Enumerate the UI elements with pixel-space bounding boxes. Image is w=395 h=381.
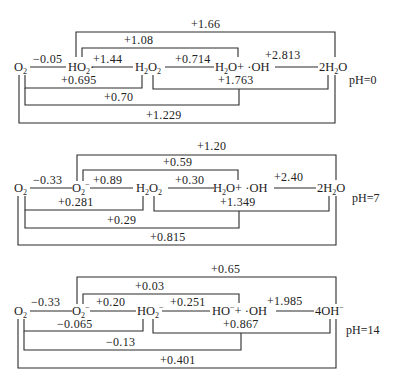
- diagram-ph0: O2 HO2· H2O2 H2O+ ·OH 2H2O −0.05 +1.44 +…: [14, 17, 376, 123]
- species-o2: O2: [14, 60, 27, 76]
- potential-o2-product: +0.401: [160, 353, 196, 367]
- potential-superoxide-radical: +0.59: [163, 155, 192, 169]
- potential-o2-product: +1.229: [146, 108, 182, 122]
- diagram-ph7: O2 O2− H2O2 H2O+ ·OH 2H2O −0.33 +0.89 +0…: [14, 139, 379, 245]
- potential-o2-superoxide: −0.33: [33, 173, 62, 187]
- potential-superoxide-radical: +1.08: [124, 33, 153, 47]
- potential-peroxide-product: +1.763: [218, 73, 254, 87]
- potential-superoxide-product: +1.66: [191, 17, 220, 31]
- latimer-diagram-canvas: O2 HO2· H2O2 H2O+ ·OH 2H2O −0.05 +1.44 +…: [0, 0, 395, 381]
- species-radical-pair: HO−+ ·OH: [212, 303, 267, 318]
- potential-superoxide-product: +0.65: [211, 262, 240, 276]
- potential-peroxide-radical: +0.714: [175, 52, 211, 66]
- ph-label: pH=0: [349, 73, 376, 87]
- potential-o2-radical: −0.13: [106, 335, 135, 349]
- potential-superoxide-peroxide: +0.89: [93, 173, 122, 187]
- potential-o2-product: +0.815: [150, 230, 186, 244]
- species-peroxide: H2O2: [135, 60, 161, 76]
- species-o2: O2: [14, 181, 27, 197]
- species-peroxide: HO2−: [137, 303, 164, 320]
- species-product: 2H2O: [319, 60, 347, 76]
- species-product: 4OH−: [315, 303, 344, 318]
- potential-radical-product: +2.40: [274, 170, 303, 184]
- potential-o2-superoxide: −0.05: [33, 52, 62, 66]
- potential-o2-radical: +0.29: [107, 213, 136, 227]
- potential-o2-superoxide: −0.33: [31, 295, 60, 309]
- potential-peroxide-product: +0.867: [223, 317, 259, 331]
- potential-o2-peroxide: −0.065: [57, 317, 93, 331]
- ph-label: pH=14: [346, 323, 379, 337]
- potential-superoxide-product: +1.20: [197, 139, 226, 153]
- ph-label: pH=7: [352, 191, 379, 205]
- potential-superoxide-peroxide: +1.44: [93, 52, 122, 66]
- potential-peroxide-radical: +0.251: [170, 295, 206, 309]
- potential-radical-product: +1.985: [267, 294, 303, 308]
- potential-o2-peroxide: +0.695: [61, 73, 97, 87]
- diagram-ph14: O2 O2− HO2− HO−+ ·OH 4OH− −0.33 +0.20 +0…: [14, 262, 379, 368]
- potential-o2-peroxide: +0.281: [58, 195, 94, 209]
- potential-peroxide-product: +1.349: [220, 195, 256, 209]
- potential-superoxide-peroxide: +0.20: [96, 295, 125, 309]
- species-o2: O2: [14, 304, 27, 320]
- potential-o2-radical: +0.70: [104, 90, 133, 104]
- potential-superoxide-radical: +0.03: [135, 279, 164, 293]
- species-product: 2H2O: [317, 181, 345, 197]
- potential-radical-product: +2.813: [265, 48, 301, 62]
- potential-peroxide-radical: +0.30: [175, 173, 204, 187]
- species-peroxide: H2O2: [136, 181, 162, 197]
